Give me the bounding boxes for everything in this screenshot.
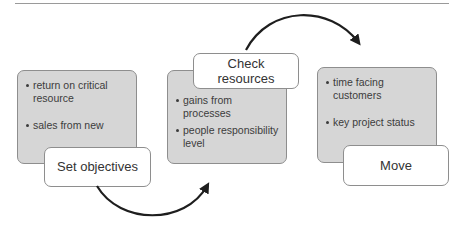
arrow-set-to-check-icon [97,186,207,215]
connector-arrows [0,0,465,230]
arrow-check-to-move-icon [246,15,358,50]
